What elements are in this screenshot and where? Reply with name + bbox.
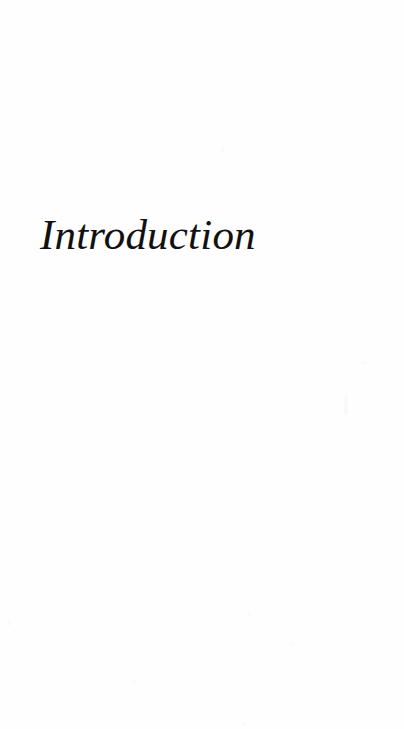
- chapter-title: Introduction: [40, 211, 256, 259]
- book-page: Introduction: [0, 0, 404, 729]
- scan-artifact-speck: [221, 147, 224, 153]
- scan-artifact-speck: [241, 722, 245, 726]
- scan-artifact-speck: [248, 612, 251, 617]
- scan-artifact-speck: [344, 395, 348, 415]
- scan-artifact-speck: [8, 619, 11, 626]
- scan-artifact-speck: [131, 680, 136, 683]
- scan-artifact-speck: [361, 361, 366, 365]
- scan-artifact-speck: [289, 643, 293, 647]
